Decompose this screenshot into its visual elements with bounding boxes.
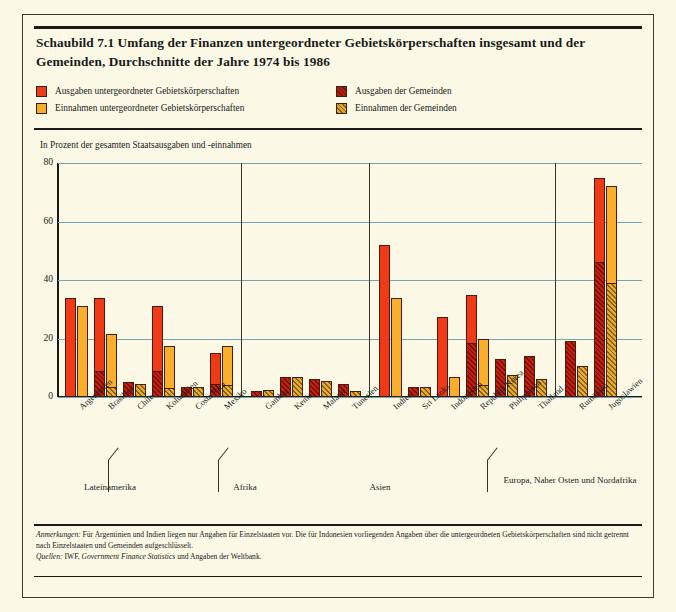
region-label-afrika: Afrika [185, 482, 305, 493]
bar-expenditure [594, 178, 605, 397]
region-label-asien: Asien [300, 482, 460, 493]
bar-revenue [391, 298, 402, 397]
region-separator [241, 163, 242, 397]
bar-expenditure [251, 391, 262, 397]
bar-segment-municipal-expenditure [251, 391, 262, 397]
bar-expenditure [65, 298, 76, 397]
bar-group [251, 163, 274, 397]
y-axis-note: In Prozent der gesamten Staatsausgaben u… [40, 140, 252, 150]
bar-group [379, 163, 402, 397]
legend-label-exp-sub: Ausgaben untergeordneter Gebietskörpersc… [55, 86, 239, 97]
bar-group [210, 163, 233, 397]
bar-group [495, 163, 518, 397]
notes-quellen-italic: Government Finance Statistics [82, 552, 176, 561]
bar-group [524, 163, 547, 397]
legend-swatch-exp-mun-icon [336, 86, 347, 97]
figure-page: Schaubild 7.1 Umfang der Finanzen unterg… [0, 0, 676, 612]
notes-rule [34, 524, 642, 526]
bar-segment-municipal-expenditure [152, 371, 163, 397]
top-rule [34, 26, 642, 29]
category-labels: ArgentinienBrasilienChileKolumbienCosta … [0, 400, 676, 470]
bar-group [152, 163, 175, 397]
region-label-lateinamerika: Lateinamerika [40, 482, 180, 493]
notes-quellen-label: Quellen: [36, 552, 63, 561]
bar-group [594, 163, 617, 397]
bar-revenue [606, 186, 617, 397]
bar-group [408, 163, 431, 397]
bar-group [338, 163, 361, 397]
bar-group [65, 163, 88, 397]
legend-label-exp-mun: Ausgaben der Gemeinden [355, 86, 452, 97]
legend-swatch-exp-sub-icon [36, 86, 47, 97]
bar-revenue [577, 366, 588, 397]
y-axis-tick-label: 80 [27, 156, 53, 167]
legend-rule [34, 128, 642, 130]
bar-group [123, 163, 146, 397]
region-separator [369, 163, 370, 397]
y-axis-tick-label: 60 [27, 215, 53, 226]
region-separator [555, 163, 556, 397]
bottom-rule [34, 576, 642, 577]
bar-segment-municipal-revenue [606, 283, 617, 397]
bar-segment-municipal-expenditure [565, 341, 576, 397]
notes-quellen-text-a: IWF, [63, 552, 82, 561]
y-axis-tick-label: 40 [27, 273, 53, 284]
bar-revenue [77, 306, 88, 397]
region-label-europa: Europa, Naher Osten und Nordafrika [500, 474, 640, 486]
legend-label-rev-sub: Einnahmen untergeordneter Gebietskörpers… [55, 103, 244, 114]
bar-expenditure [152, 306, 163, 397]
notes-quellen-text-b: und Angaben der Weltbank. [175, 552, 261, 561]
bar-group [437, 163, 460, 397]
notes-quellen: Quellen: IWF, Government Finance Statist… [36, 552, 642, 563]
figure-notes: Anmerkungen: Für Argentinien und Indien … [36, 530, 642, 562]
legend-label-rev-mun: Einnahmen der Gemeinden [355, 103, 457, 114]
bar-segment-municipal-expenditure [594, 262, 605, 397]
y-axis-tick-label: 20 [27, 332, 53, 343]
bar-group [309, 163, 332, 397]
plot-area: 020406080 [58, 163, 642, 397]
bar-expenditure [379, 245, 390, 397]
bar-group [94, 163, 117, 397]
legend-swatch-rev-sub-icon [36, 103, 47, 114]
region-groups: Lateinamerika Afrika Asien Europa, Naher… [0, 462, 676, 522]
notes-anmerkungen-label: Anmerkungen: [36, 530, 81, 539]
bar-group [466, 163, 489, 397]
notes-anmerkungen: Anmerkungen: Für Argentinien und Indien … [36, 530, 642, 552]
bar-group [181, 163, 204, 397]
legend-swatch-rev-mun-icon [336, 103, 347, 114]
bar-expenditure [565, 341, 576, 397]
bar-segment-municipal-revenue [577, 366, 588, 397]
figure-title: Schaubild 7.1 Umfang der Finanzen unterg… [36, 34, 640, 72]
legend: Ausgaben untergeordneter Gebietskörpersc… [36, 86, 640, 120]
notes-anmerkungen-text: Für Argentinien und Indien liegen nur An… [36, 530, 629, 550]
bar-group [280, 163, 303, 397]
bar-revenue [164, 346, 175, 397]
bar-group [565, 163, 588, 397]
